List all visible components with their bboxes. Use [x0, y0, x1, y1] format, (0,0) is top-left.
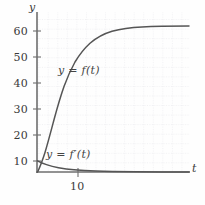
x-tick-label-10: 10	[70, 180, 84, 193]
x-axis-label: t	[192, 162, 196, 175]
y-axis-label: y	[29, 1, 35, 14]
y-tick-label-60: 60	[6, 25, 28, 38]
curve-label-f-prime: y = f′(t)	[46, 148, 91, 161]
y-tick-label-40: 40	[6, 77, 28, 90]
y-tick-label-10: 10	[6, 155, 28, 168]
y-tick-label-30: 30	[6, 103, 28, 116]
plot-canvas	[0, 0, 205, 205]
y-tick-label-50: 50	[6, 51, 28, 64]
figure-container: y t 60 50 40 30 20 10 10 y = f(t) y = f′…	[0, 0, 205, 205]
y-tick-label-20: 20	[6, 129, 28, 142]
curve-label-f: y = f(t)	[58, 64, 100, 77]
